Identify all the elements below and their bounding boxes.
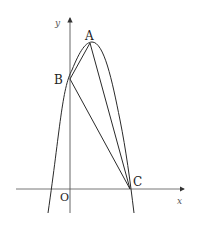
- point-c-label: C: [133, 175, 142, 189]
- coordinate-diagram: A B C O y x: [0, 0, 197, 227]
- x-axis-label: x: [177, 196, 182, 206]
- y-axis-label: y: [54, 18, 61, 28]
- segment-bc: [70, 79, 130, 189]
- point-a-label: A: [84, 29, 94, 43]
- segment-ab: [70, 43, 90, 79]
- parabola-curve: [48, 42, 134, 213]
- segment-ac: [90, 43, 130, 189]
- point-b-label: B: [54, 73, 63, 87]
- origin-label: O: [60, 191, 69, 204]
